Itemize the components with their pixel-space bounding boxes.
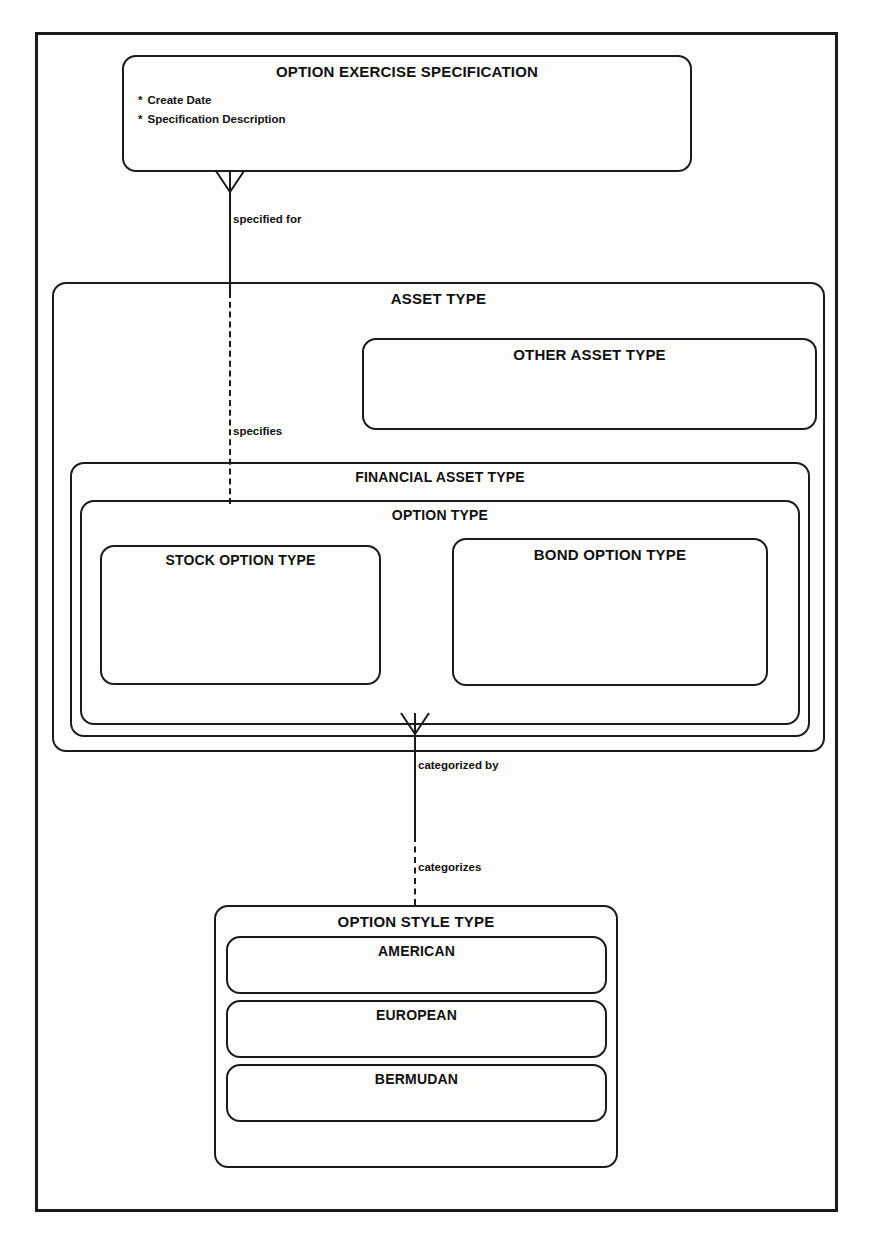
crowfoot-icon-categorized-by	[397, 712, 433, 736]
entity-title-financial-asset-type: FINANCIAL ASSET TYPE	[72, 469, 808, 485]
attribute-bullet: *	[138, 113, 142, 125]
entity-stock-option-type[interactable]: STOCK OPTION TYPE	[100, 545, 381, 685]
entity-title-american: AMERICAN	[228, 943, 605, 959]
entity-title-asset-type: ASSET TYPE	[54, 290, 823, 307]
relationship-label-specified-for: specified for	[233, 213, 301, 225]
entity-american[interactable]: AMERICAN	[226, 936, 607, 994]
relationship-line-categorizes	[414, 836, 416, 905]
entity-title-bermudan: BERMUDAN	[228, 1071, 605, 1087]
relationship-line-categorized-by	[414, 734, 416, 836]
relationship-label-categorizes: categorizes	[418, 861, 481, 873]
relationship-line-specified-for	[229, 192, 231, 292]
entity-title-other-asset-type: OTHER ASSET TYPE	[364, 346, 815, 363]
entity-european[interactable]: EUROPEAN	[226, 1000, 607, 1058]
entity-title-option-exercise-specification: OPTION EXERCISE SPECIFICATION	[124, 63, 690, 80]
crowfoot-icon-specified-for	[212, 170, 248, 194]
entity-title-european: EUROPEAN	[228, 1007, 605, 1023]
relationship-label-categorized-by: categorized by	[418, 759, 499, 771]
attribute-bullet: *	[138, 94, 142, 106]
attribute-row: *Specification Description	[138, 110, 286, 129]
entity-title-option-style-type: OPTION STYLE TYPE	[216, 913, 616, 930]
attribute-row: *Create Date	[138, 91, 286, 110]
entity-option-exercise-specification[interactable]: OPTION EXERCISE SPECIFICATION *Create Da…	[122, 55, 692, 172]
entity-title-bond-option-type: BOND OPTION TYPE	[454, 546, 766, 563]
diagram-canvas: OPTION EXERCISE SPECIFICATION *Create Da…	[0, 0, 869, 1243]
entity-title-stock-option-type: STOCK OPTION TYPE	[102, 552, 379, 568]
entity-other-asset-type[interactable]: OTHER ASSET TYPE	[362, 338, 817, 430]
attribute-list-option-exercise-specification: *Create Date *Specification Description	[138, 91, 286, 129]
entity-bermudan[interactable]: BERMUDAN	[226, 1064, 607, 1122]
attribute-name: Create Date	[147, 94, 211, 106]
entity-title-option-type: OPTION TYPE	[82, 507, 798, 523]
attribute-name: Specification Description	[147, 113, 285, 125]
entity-bond-option-type[interactable]: BOND OPTION TYPE	[452, 538, 768, 686]
